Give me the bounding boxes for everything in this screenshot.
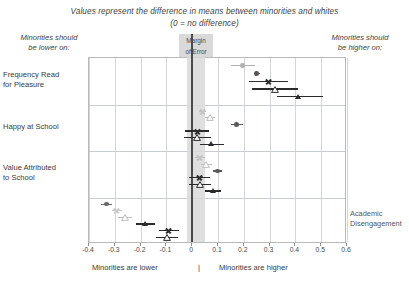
x-tick-label-10: 0.6: [341, 246, 350, 253]
footer-left-label: Minorities are lower: [92, 263, 158, 272]
row-label-2-line-2: to School: [3, 173, 87, 183]
vgridline-9: [321, 58, 322, 242]
plot-area: Marginof Error: [88, 57, 346, 243]
chart-figure: Values represent the difference in means…: [0, 0, 409, 281]
x-tick-label-3: -0.1: [160, 246, 172, 253]
row-label-2-line-1: Value Attributed: [3, 163, 87, 173]
marker-triangle-filled: [295, 94, 301, 99]
row-label-0-line-2: for Pleasure: [3, 80, 87, 90]
x-tick-label-0: -0.4: [82, 246, 94, 253]
vgridline-3: [166, 58, 167, 242]
x-tick-label-8: 0.4: [290, 246, 299, 253]
x-tick-label-7: 0.3: [264, 246, 273, 253]
acad-diseng-line-1: Academic: [350, 209, 408, 219]
vgridline-1: [115, 58, 116, 242]
vgridline-8: [295, 58, 296, 242]
right-corner-label: Minorities shouldbe higher on:: [314, 33, 406, 53]
row-label-2: Value Attributedto School: [3, 163, 87, 183]
row-label-1: Happy at School: [3, 122, 87, 132]
hgridline-3: [89, 198, 345, 199]
vgridline-6: [244, 58, 245, 242]
row-label-0-line-1: Frequency Read: [3, 70, 87, 80]
chart-title-line-2: (0 = no difference): [0, 19, 409, 28]
right-corner-line-1: Minorities should: [314, 33, 406, 43]
footer-right-label: Minorities are higher: [219, 263, 288, 272]
moe-line-1: Margin: [179, 35, 213, 46]
margin-of-error-label: Marginof Error: [179, 34, 213, 57]
acad-diseng-line-2: Disengagement: [350, 219, 408, 229]
marker-triangle-filled: [210, 188, 216, 193]
x-tick-label-5: 0.1: [212, 246, 221, 253]
left-corner-line-1: Minorities should: [3, 33, 95, 43]
moe-line-2: of Error: [179, 46, 213, 57]
x-tick-label-6: 0.2: [238, 246, 247, 253]
marker-circle: [254, 71, 259, 76]
marker-circle: [104, 202, 109, 207]
x-axis: -0.4-0.3-0.2-0.100.10.20.30.40.50.6: [88, 243, 346, 255]
left-corner-label: Minorities shouldbe lower on:: [3, 33, 95, 53]
marker-circle: [240, 63, 245, 68]
vgridline-2: [141, 58, 142, 242]
hgridline-2: [89, 151, 345, 152]
x-tick-label-9: 0.5: [315, 246, 324, 253]
marker-triangle-filled: [142, 221, 148, 226]
academic-disengagement-note: AcademicDisengagement: [350, 209, 408, 229]
marker-circle: [234, 122, 239, 127]
row-label-0: Frequency Readfor Pleasure: [3, 70, 87, 90]
x-tick-label-4: 0: [189, 246, 193, 253]
marker-x: [265, 78, 272, 85]
marker-triangle-filled: [208, 141, 214, 146]
chart-title-line-1: Values represent the difference in means…: [0, 7, 409, 16]
right-corner-line-2: be higher on:: [314, 43, 406, 53]
vgridline-5: [218, 58, 219, 242]
vgridline-10: [347, 58, 348, 242]
marker-x: [113, 207, 120, 214]
x-tick-label-2: -0.2: [134, 246, 146, 253]
left-corner-line-2: be lower on:: [3, 43, 95, 53]
x-tick-label-1: -0.3: [108, 246, 120, 253]
hgridline-1: [89, 105, 345, 106]
marker-circle: [215, 169, 220, 174]
footer-separator: |: [198, 263, 200, 272]
row-label-1-line-1: Happy at School: [3, 122, 87, 132]
vgridline-0: [89, 58, 90, 242]
